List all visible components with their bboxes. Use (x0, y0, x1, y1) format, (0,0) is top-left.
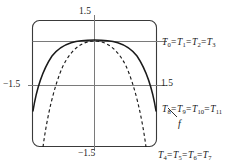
subscript-t0: 0 (167, 41, 170, 48)
subscript-t8: 8 (167, 108, 170, 115)
subscript-t4: 4 (163, 154, 166, 161)
axis-tick-label-bottom: −1.5 (78, 148, 95, 158)
subscript-t7: 7 (208, 154, 211, 161)
subscript-t10: 10 (197, 108, 204, 115)
subscript-t6: 6 (193, 154, 196, 161)
axis-tick-label-left: −1.5 (3, 79, 20, 89)
subscript-t1: 1 (182, 41, 185, 48)
subscript-t9: 9 (182, 108, 185, 115)
subscript-t11: 11 (216, 108, 222, 115)
axis-tick-label-top: 1.5 (79, 6, 91, 16)
plot-canvas (0, 0, 238, 165)
axis-tick-label-right: 1.5 (161, 78, 173, 88)
annotation-group-t0-t3: T0=T1=T2=T3 (162, 37, 215, 47)
annotation-group-t4-t7: T4=T5=T6=T7 (158, 150, 211, 160)
subscript-t5: 5 (178, 154, 181, 161)
subscript-t2: 2 (197, 41, 200, 48)
math-figure: 1.5 −1.5 −1.5 1.5 T0=T1=T2=T3 T8=T9=T10=… (0, 0, 238, 165)
curve-label-f: f (178, 118, 181, 129)
annotation-group-t8-t11: T8=T9=T10=T11 (162, 104, 222, 114)
symbol-t11: T (210, 104, 215, 114)
subscript-t3: 3 (212, 41, 215, 48)
